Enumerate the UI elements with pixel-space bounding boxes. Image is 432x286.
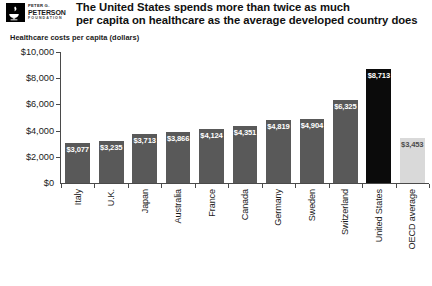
bar-france[interactable]: $4,124 — [199, 52, 224, 183]
y-axis-caption: Healthcare costs per capita (dollars) — [10, 33, 139, 42]
bar-value-label: $6,325 — [333, 102, 358, 111]
logo-line-1: PETER G. — [28, 4, 66, 8]
chart-title-line-2: per capita on healthcare as the average … — [76, 14, 428, 27]
x-axis-label-slot: United States — [362, 189, 395, 285]
y-axis-tick-label: $0 — [8, 178, 54, 188]
bar-value-label: $3,713 — [132, 136, 157, 145]
x-axis-tick-mark — [195, 184, 196, 188]
chart-title-line-1: The United States spends more than twice… — [76, 1, 428, 14]
x-axis-label-slot: Australia — [161, 189, 194, 285]
bar-rect[interactable]: $3,077 — [65, 143, 90, 183]
y-axis-tick-label: $8,000 — [8, 73, 54, 83]
x-axis-label-slot: France — [195, 189, 228, 285]
x-axis-label-slot: Germany — [262, 189, 295, 285]
chart-title: The United States spends more than twice… — [76, 1, 428, 27]
x-axis-label-slot: U.K. — [94, 189, 127, 285]
x-axis-label-france: France — [207, 189, 217, 217]
bar-germany[interactable]: $4,819 — [266, 52, 291, 183]
x-axis-label-slot: Canada — [228, 189, 261, 285]
x-axis-label-germany: Germany — [273, 189, 283, 226]
bar-rect[interactable]: $3,235 — [99, 141, 124, 183]
bar-rect[interactable]: $4,904 — [300, 119, 325, 183]
bar-rect[interactable]: $3,866 — [166, 132, 191, 183]
bar-rect[interactable]: $6,325 — [333, 100, 358, 183]
bar-value-label: $4,904 — [300, 121, 325, 130]
x-axis-label-italy: Italy — [73, 189, 83, 205]
bar-rect[interactable]: $4,819 — [266, 120, 291, 183]
x-axis-label-oecd-average: OECD average — [407, 189, 417, 249]
bar-u-k[interactable]: $3,235 — [99, 52, 124, 183]
x-axis-label-australia: Australia — [173, 189, 183, 223]
bar-value-label: $8,713 — [366, 71, 391, 80]
x-axis-tick-mark — [329, 184, 330, 188]
x-axis-tick-mark — [161, 184, 162, 188]
y-axis-tick-mark — [56, 157, 60, 158]
x-axis-label-u-k: U.K. — [106, 189, 116, 206]
bar-australia[interactable]: $3,866 — [166, 52, 191, 183]
x-axis-tick-mark — [362, 184, 363, 188]
x-axis-tick-mark — [228, 184, 229, 188]
x-axis-tick-mark — [295, 184, 296, 188]
bar-oecd-average[interactable]: $3,453 — [400, 52, 425, 183]
bar-value-label: $3,866 — [166, 134, 191, 143]
peterson-foundation-logo-icon — [6, 3, 25, 22]
logo-line-3: FOUNDATION — [28, 17, 66, 21]
bar-united-states[interactable]: $8,713 — [366, 52, 391, 183]
bar-rect[interactable]: $3,713 — [132, 134, 157, 183]
x-axis-tick-mark — [128, 184, 129, 188]
bar-chart: $0$2,000$4,000$6,000$8,000$10,000 $3,077… — [0, 44, 432, 286]
x-axis-label-japan: Japan — [140, 189, 150, 213]
y-axis-tick-mark — [56, 78, 60, 79]
bar-value-label: $4,124 — [199, 131, 224, 140]
x-axis-label-slot: Japan — [128, 189, 161, 285]
bar-value-label: $4,351 — [233, 128, 258, 137]
y-axis-tick-label: $10,000 — [8, 47, 54, 57]
y-axis-tick-mark — [56, 131, 60, 132]
bar-series: $3,077$3,235$3,713$3,866$4,124$4,351$4,8… — [61, 52, 429, 183]
x-axis-label-switzerland: Switzerland — [340, 189, 350, 235]
chart-header: PETER G. PETERSON FOUNDATION The United … — [0, 0, 432, 30]
bar-rect[interactable]: $3,453 — [400, 138, 425, 183]
x-axis-tick-mark — [61, 184, 62, 188]
x-axis-label-slot: OECD average — [396, 189, 429, 285]
x-axis-category-labels: ItalyU.K.JapanAustraliaFranceCanadaGerma… — [61, 189, 429, 285]
bar-sweden[interactable]: $4,904 — [300, 52, 325, 183]
x-axis-label-canada: Canada — [240, 189, 250, 220]
x-axis-tick-mark — [396, 184, 397, 188]
y-axis-tick-labels: $0$2,000$4,000$6,000$8,000$10,000 — [6, 44, 54, 184]
bar-italy[interactable]: $3,077 — [65, 52, 90, 183]
x-axis-label-sweden: Sweden — [307, 189, 317, 221]
y-axis-tick-label: $2,000 — [8, 152, 54, 162]
x-axis-label-slot: Switzerland — [329, 189, 362, 285]
x-axis-tick-mark — [94, 184, 95, 188]
y-axis-tick-label: $4,000 — [8, 126, 54, 136]
peterson-foundation-logo: PETER G. PETERSON FOUNDATION — [6, 3, 66, 22]
bar-value-label: $4,819 — [266, 122, 291, 131]
y-axis-tick-mark — [56, 104, 60, 105]
x-axis-label-slot: Italy — [61, 189, 94, 285]
x-axis-label-slot: Sweden — [295, 189, 328, 285]
x-axis-tick-mark — [262, 184, 263, 188]
bar-rect[interactable]: $4,351 — [233, 126, 258, 183]
x-axis-tick-marks — [61, 184, 429, 188]
bar-rect[interactable]: $8,713 — [366, 69, 391, 183]
logo-wordmark: PETER G. PETERSON FOUNDATION — [28, 3, 66, 20]
bar-value-label: $3,235 — [99, 143, 124, 152]
bar-value-label: $3,077 — [65, 145, 90, 154]
y-axis-tick-label: $6,000 — [8, 99, 54, 109]
logo-line-2: PETERSON — [28, 9, 66, 16]
bar-canada[interactable]: $4,351 — [233, 52, 258, 183]
x-axis-label-united-states: United States — [374, 189, 384, 242]
bar-switzerland[interactable]: $6,325 — [333, 52, 358, 183]
y-axis-tick-mark — [56, 52, 60, 53]
x-axis-tick-mark — [429, 184, 430, 188]
bar-value-label: $3,453 — [400, 140, 425, 149]
bar-rect[interactable]: $4,124 — [199, 129, 224, 183]
bar-japan[interactable]: $3,713 — [132, 52, 157, 183]
